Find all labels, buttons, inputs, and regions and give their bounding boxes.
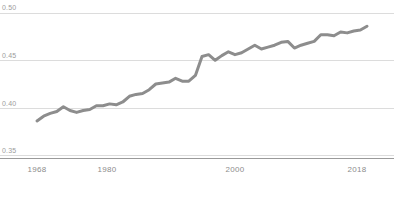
plot-area: 0.50 0.45 0.40 0.35 1968 1980 2000 2018 xyxy=(0,0,394,199)
series-line xyxy=(37,26,367,121)
line-chart: 0.50 0.45 0.40 0.35 1968 1980 2000 2018 xyxy=(0,0,394,199)
series-canvas xyxy=(0,0,394,199)
